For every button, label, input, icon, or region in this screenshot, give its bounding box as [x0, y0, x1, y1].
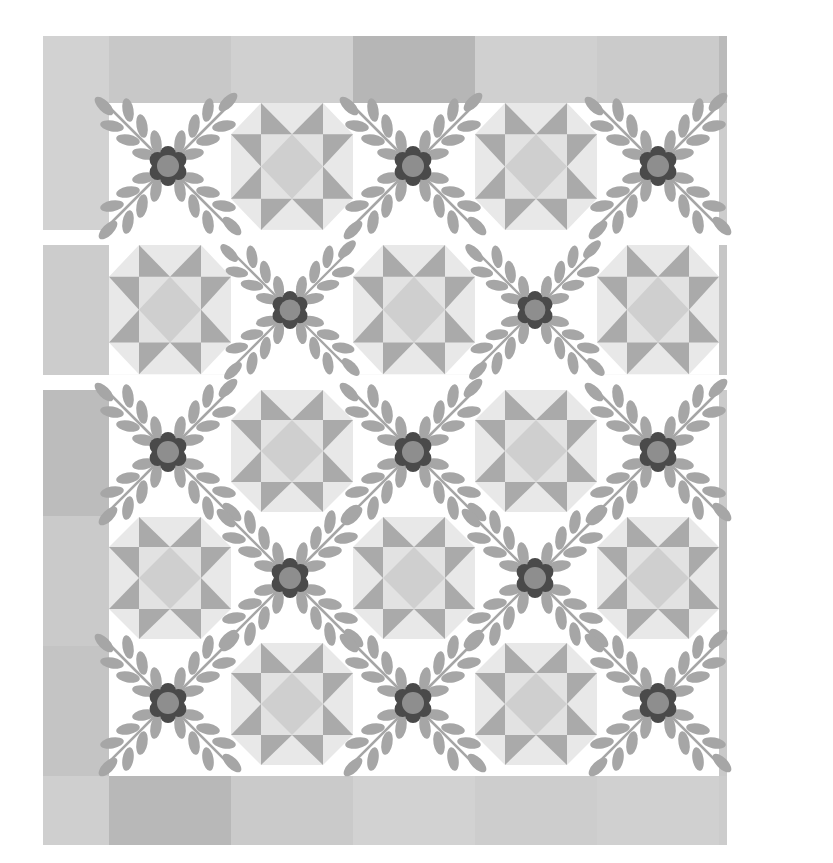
bottom-panel [43, 376, 734, 845]
quilt-diagram [0, 0, 833, 863]
top-panel [43, 36, 734, 242]
middle-panel [43, 237, 727, 382]
